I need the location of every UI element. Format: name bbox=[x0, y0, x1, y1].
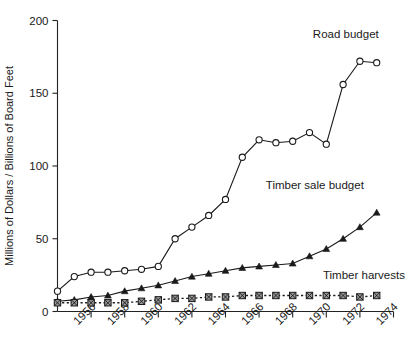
data-point-marker bbox=[239, 154, 245, 160]
series-line bbox=[58, 61, 377, 291]
x-axis-tick-label: 1972 bbox=[340, 300, 367, 327]
series-label: Timber sale budget bbox=[266, 179, 365, 191]
data-point-marker bbox=[306, 129, 312, 135]
y-axis-tick-label: 50 bbox=[36, 233, 49, 245]
data-point-marker bbox=[155, 263, 161, 269]
series-label: Timber harvests bbox=[323, 269, 405, 281]
x-axis-tick-label: 1962 bbox=[172, 300, 199, 327]
series-label: Road budget bbox=[313, 28, 380, 40]
series-3 bbox=[54, 292, 380, 306]
data-point-marker bbox=[54, 288, 60, 294]
x-axis-tick-label: 1974 bbox=[373, 300, 400, 327]
y-axis-tick-label: 150 bbox=[29, 87, 48, 99]
data-point-marker bbox=[340, 81, 346, 87]
series-2 bbox=[54, 209, 380, 304]
y-axis-tick-label: 100 bbox=[29, 160, 48, 172]
data-point-marker bbox=[323, 246, 330, 252]
data-point-marker bbox=[138, 266, 144, 272]
data-point-marker bbox=[289, 260, 296, 266]
data-point-marker bbox=[306, 253, 313, 259]
data-point-marker bbox=[357, 58, 363, 64]
data-point-marker bbox=[256, 137, 262, 143]
x-axis-tick-label: 1966 bbox=[239, 300, 266, 327]
data-point-marker bbox=[222, 196, 228, 202]
data-point-marker bbox=[340, 235, 347, 241]
data-point-marker bbox=[88, 269, 94, 275]
series-line bbox=[58, 213, 377, 302]
data-point-marker bbox=[323, 141, 329, 147]
line-chart: 050100150200Millions of Dollars / Billio… bbox=[0, 0, 418, 361]
y-axis-tick-label: 0 bbox=[42, 306, 48, 318]
data-point-marker bbox=[273, 140, 279, 146]
data-point-marker bbox=[206, 212, 212, 218]
data-point-marker bbox=[189, 224, 195, 230]
chart-container: 050100150200Millions of Dollars / Billio… bbox=[0, 0, 418, 361]
x-axis-tick-label: 1968 bbox=[273, 300, 300, 327]
y-axis-tick-label: 200 bbox=[29, 15, 48, 27]
data-point-marker bbox=[172, 236, 178, 242]
x-axis-tick-label: 1970 bbox=[306, 300, 333, 327]
data-point-marker bbox=[105, 269, 111, 275]
data-point-marker bbox=[71, 273, 77, 279]
data-point-marker bbox=[122, 268, 128, 274]
data-point-marker bbox=[373, 209, 380, 215]
x-axis-tick-label: 1964 bbox=[205, 300, 232, 327]
data-point-marker bbox=[374, 60, 380, 66]
data-point-marker bbox=[290, 138, 296, 144]
series-1 bbox=[54, 58, 379, 294]
y-axis-title: Millions of Dollars / Billions of Board … bbox=[3, 66, 15, 266]
